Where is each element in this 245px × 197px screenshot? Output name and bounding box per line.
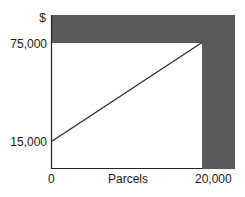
x-axis-title: Parcels [108, 173, 148, 185]
x-tick-0: 0 [48, 173, 55, 185]
cost-line [52, 43, 203, 142]
cost-chart: $ 75,000 15,000 0 Parcels 20,000 [0, 0, 245, 197]
chart-canvas [0, 0, 245, 197]
y-tick-75000: 75,000 [10, 38, 47, 50]
y-axis-unit-label: $ [39, 12, 46, 24]
x-tick-20000: 20,000 [195, 173, 232, 185]
y-tick-15000: 15,000 [10, 136, 47, 148]
shaded-region-right [202, 15, 235, 169]
